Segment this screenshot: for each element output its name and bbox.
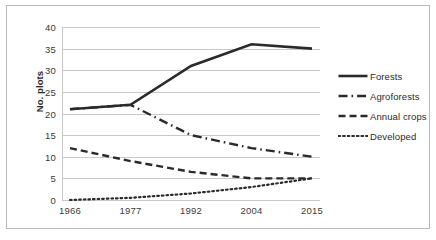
legend-item-agroforests[interactable]: Agroforests: [338, 86, 430, 106]
y-axis-tick-label: 25: [22, 86, 56, 97]
x-axis-tick-label: 1992: [168, 205, 214, 216]
y-axis-tick-label: 0: [22, 195, 56, 206]
x-axis-tick-label: 2004: [229, 205, 275, 216]
legend-item-forests[interactable]: Forests: [338, 66, 430, 86]
legend-label: Developed: [370, 131, 416, 142]
chart-legend: ForestsAgroforestsAnnual cropsDeveloped: [338, 66, 430, 146]
y-axis-tick-label: 40: [22, 22, 56, 33]
data-series-group: [62, 27, 320, 200]
x-axis-tick-labels: 19661977199220042015: [62, 205, 320, 221]
legend-item-annual-crops[interactable]: Annual crops: [338, 106, 430, 126]
plot-area: [62, 27, 320, 200]
series-line-annual-crops: [70, 148, 312, 178]
legend-swatch-dash-dot: [338, 91, 368, 101]
x-axis-tick-label: 1966: [47, 205, 93, 216]
legend-swatch-solid: [338, 71, 368, 81]
y-axis-tick-label: 5: [22, 173, 56, 184]
series-line-agroforests: [70, 105, 312, 157]
legend-swatch-dotted: [338, 131, 368, 141]
series-line-developed: [70, 178, 312, 200]
x-axis-tick-label: 1977: [108, 205, 154, 216]
legend-label: Agroforests: [370, 91, 420, 102]
y-axis-tick-label: 10: [22, 151, 56, 162]
legend-swatch-dashed: [338, 111, 368, 121]
y-axis-tick-label: 20: [22, 108, 56, 119]
y-axis-tick-labels: 4035302520151050: [22, 27, 56, 200]
legend-label: Forests: [370, 71, 402, 82]
y-axis-tick-label: 15: [22, 130, 56, 141]
legend-item-developed[interactable]: Developed: [338, 126, 430, 146]
chart-figure: No. plots 4035302520151050 1966197719922…: [0, 0, 436, 240]
legend-label: Annual crops: [370, 111, 427, 122]
y-axis-tick-label: 35: [22, 43, 56, 54]
y-axis-tick-label: 30: [22, 65, 56, 76]
gridline: [62, 200, 320, 201]
series-line-forests: [70, 44, 312, 109]
x-axis-tick-label: 2015: [289, 205, 335, 216]
